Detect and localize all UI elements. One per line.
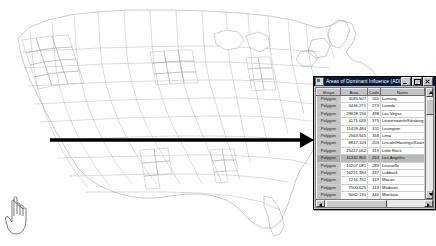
cell-area[interactable]: 25417.062 bbox=[341, 147, 368, 154]
cell-area[interactable]: 5062.130 bbox=[341, 192, 368, 199]
scroll-left-button[interactable] bbox=[316, 200, 325, 207]
cell-code[interactable]: 160 bbox=[368, 96, 381, 103]
table-row[interactable]: Polygon16221.384437Lubbock bbox=[317, 170, 425, 177]
window-controls bbox=[401, 77, 434, 86]
cell-name[interactable]: Lincoln/Hastings/Kearney bbox=[381, 140, 425, 147]
cell-shape[interactable]: Polygon bbox=[317, 184, 341, 191]
column-header-code[interactable]: Code bbox=[368, 89, 381, 96]
cell-code[interactable]: 319 bbox=[368, 147, 381, 154]
table-row[interactable]: Polygon5062.130440Mankato bbox=[317, 192, 425, 199]
scroll-up-button[interactable] bbox=[426, 88, 433, 97]
close-button[interactable] bbox=[423, 77, 433, 86]
cell-area[interactable]: 4446.271 bbox=[341, 103, 368, 110]
cell-area[interactable]: 7500.625 bbox=[341, 184, 368, 191]
column-header-shape[interactable]: Shape bbox=[317, 89, 341, 96]
cell-shape[interactable]: Polygon bbox=[317, 103, 341, 110]
table-row[interactable]: Polygon25417.062319Little Rock bbox=[317, 147, 425, 154]
cell-name[interactable]: Lubbock bbox=[381, 170, 425, 177]
table-header-row: Shape Area Code Name bbox=[317, 89, 425, 96]
cell-shape[interactable]: Polygon bbox=[317, 133, 341, 140]
table-row[interactable]: Polygon8847.103203Lincoln/Hastings/Kearn… bbox=[317, 140, 425, 147]
table-columns: Shape Area Code Name Polygon3085.507160L… bbox=[316, 88, 425, 199]
cell-name[interactable]: Macon bbox=[381, 177, 425, 184]
table-row[interactable]: Polygon11429.484311Lexington bbox=[317, 125, 425, 132]
cell-name[interactable]: Madison bbox=[381, 184, 425, 191]
table-body: Polygon3085.507160LansingPolygon4446.271… bbox=[317, 96, 425, 200]
cell-area[interactable]: 41332.801 bbox=[341, 155, 368, 162]
cell-shape[interactable]: Polygon bbox=[317, 110, 341, 117]
horizontal-scroll-thumb[interactable] bbox=[326, 200, 387, 208]
document-icon bbox=[315, 77, 324, 86]
cell-code[interactable]: 437 bbox=[368, 170, 381, 177]
cell-area[interactable]: 3085.507 bbox=[341, 96, 368, 103]
table-row[interactable]: Polygon3085.507160Lansing bbox=[317, 96, 425, 103]
cell-name[interactable]: Lexington bbox=[381, 125, 425, 132]
table-row[interactable]: Polygon10207.081289Louisville bbox=[317, 162, 425, 169]
cell-code[interactable]: 289 bbox=[368, 162, 381, 169]
cell-shape[interactable]: Polygon bbox=[317, 118, 341, 125]
cell-code[interactable]: 440 bbox=[368, 192, 381, 199]
cell-name[interactable]: Lansing bbox=[381, 96, 425, 103]
cell-shape[interactable]: Polygon bbox=[317, 177, 341, 184]
gis-application-window: Areas of Dominant Influence (ADI) bbox=[0, 0, 436, 246]
window-titlebar[interactable]: Areas of Dominant Influence (ADI) bbox=[314, 77, 435, 86]
cell-code[interactable]: 203 bbox=[368, 140, 381, 147]
cell-name[interactable]: Leavenworth/Kittsburg bbox=[381, 118, 425, 125]
table-row[interactable]: Polygon7500.625113Madison bbox=[317, 184, 425, 191]
column-header-name[interactable]: Name bbox=[381, 89, 425, 96]
table-row[interactable]: Polygon2563.945168Lima bbox=[317, 133, 425, 140]
table-row[interactable]: Polygon29628.156498Las Vegas bbox=[317, 110, 425, 117]
minimize-button[interactable] bbox=[401, 77, 411, 86]
cell-area[interactable]: 2563.945 bbox=[341, 133, 368, 140]
table-scroll-area: Shape Area Code Name Polygon3085.507160L… bbox=[316, 88, 433, 199]
cell-name[interactable]: Little Rock bbox=[381, 147, 425, 154]
cell-name[interactable]: Las Vegas bbox=[381, 110, 425, 117]
cell-area[interactable]: 11429.484 bbox=[341, 125, 368, 132]
attribute-table-window[interactable]: Areas of Dominant Influence (ADI) bbox=[313, 76, 436, 210]
column-header-area[interactable]: Area bbox=[341, 89, 368, 96]
cell-code[interactable]: 311 bbox=[368, 125, 381, 132]
cell-shape[interactable]: Polygon bbox=[317, 96, 341, 103]
cell-shape[interactable]: Polygon bbox=[317, 155, 341, 162]
cell-area[interactable]: 29628.156 bbox=[341, 110, 368, 117]
cell-shape[interactable]: Polygon bbox=[317, 192, 341, 199]
cell-name[interactable]: Los Angeles bbox=[381, 155, 425, 162]
maximize-button[interactable] bbox=[412, 77, 422, 86]
cell-shape[interactable]: Polygon bbox=[317, 170, 341, 177]
table-row[interactable]: Polygon4171.035375Leavenworth/Kittsburg bbox=[317, 118, 425, 125]
vertical-scrollbar[interactable] bbox=[425, 88, 433, 199]
cell-area[interactable]: 4171.035 bbox=[341, 118, 368, 125]
table-row[interactable]: Polygon41332.801253Los Angeles bbox=[317, 155, 425, 162]
cell-code[interactable]: 375 bbox=[368, 118, 381, 125]
table-row[interactable]: Polygon4446.271273Laredo bbox=[317, 103, 425, 110]
cell-name[interactable]: Lima bbox=[381, 133, 425, 140]
cell-code[interactable]: 168 bbox=[368, 133, 381, 140]
cell-code[interactable]: 253 bbox=[368, 155, 381, 162]
cell-code[interactable]: 498 bbox=[368, 110, 381, 117]
cell-area[interactable]: 7216.752 bbox=[341, 177, 368, 184]
vertical-scroll-track[interactable] bbox=[426, 97, 433, 190]
table-row[interactable]: Polygon7216.752319Macon bbox=[317, 177, 425, 184]
cell-shape[interactable]: Polygon bbox=[317, 162, 341, 169]
scroll-right-button[interactable] bbox=[424, 200, 433, 207]
attribute-table[interactable]: Shape Area Code Name Polygon3085.507160L… bbox=[316, 88, 425, 199]
cell-name[interactable]: Mankato bbox=[381, 192, 425, 199]
cell-shape[interactable]: Polygon bbox=[317, 125, 341, 132]
cell-area[interactable]: 10207.081 bbox=[341, 162, 368, 169]
window-title: Areas of Dominant Influence (ADI) bbox=[326, 78, 401, 85]
horizontal-scrollbar[interactable] bbox=[316, 199, 433, 207]
cell-code[interactable]: 319 bbox=[368, 177, 381, 184]
horizontal-scroll-track[interactable] bbox=[325, 200, 424, 207]
scroll-down-button[interactable] bbox=[426, 190, 433, 199]
cell-name[interactable]: Louisville bbox=[381, 162, 425, 169]
cell-code[interactable]: 113 bbox=[368, 184, 381, 191]
cell-area[interactable]: 16221.384 bbox=[341, 170, 368, 177]
cell-shape[interactable]: Polygon bbox=[317, 140, 341, 147]
cell-shape[interactable]: Polygon bbox=[317, 147, 341, 154]
cell-name[interactable]: Laredo bbox=[381, 103, 425, 110]
cell-area[interactable]: 8847.103 bbox=[341, 140, 368, 147]
vertical-scroll-thumb[interactable] bbox=[426, 99, 433, 115]
window-body: Shape Area Code Name Polygon3085.507160L… bbox=[315, 87, 434, 208]
cell-code[interactable]: 273 bbox=[368, 103, 381, 110]
